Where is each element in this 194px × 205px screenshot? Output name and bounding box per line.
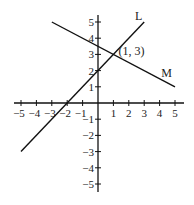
y-tick-label: −3 <box>82 146 94 158</box>
line-label-m: M <box>161 66 172 80</box>
coordinate-plane: −5−4−3−2−11234554321−1−2−3−4−5 LM(1, 3) <box>0 0 194 205</box>
x-tick-label: 5 <box>172 107 178 119</box>
x-tick-label: −5 <box>13 107 25 119</box>
y-tick-label: 3 <box>89 48 95 60</box>
y-tick-label: −5 <box>82 178 94 190</box>
x-tick-label: 2 <box>126 107 132 119</box>
x-tick-label: 4 <box>157 107 163 119</box>
y-tick-label: −2 <box>82 129 94 141</box>
axes <box>14 15 184 192</box>
y-tick-label: −4 <box>82 162 94 174</box>
line-m <box>52 22 175 87</box>
labels: LM(1, 3) <box>118 9 172 80</box>
y-tick-label: 1 <box>89 81 95 93</box>
line-label-l: L <box>135 9 142 23</box>
x-tick-label: 1 <box>111 107 117 119</box>
intersection-label: (1, 3) <box>118 44 144 58</box>
x-tick-label: 3 <box>141 107 147 119</box>
y-tick-label: 5 <box>89 16 95 28</box>
x-tick-label: −4 <box>29 107 41 119</box>
y-tick-label: −1 <box>82 113 94 125</box>
